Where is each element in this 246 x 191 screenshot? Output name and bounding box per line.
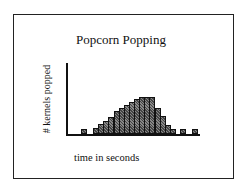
bar bbox=[170, 129, 176, 134]
bar-series bbox=[0, 0, 246, 191]
bar bbox=[180, 129, 186, 134]
bar bbox=[81, 129, 87, 134]
bar bbox=[192, 129, 198, 134]
